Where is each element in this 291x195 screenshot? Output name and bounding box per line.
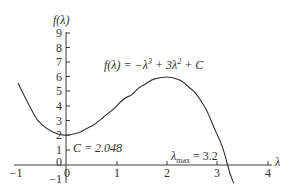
svg-text:7: 7 [56, 55, 62, 69]
svg-text:3: 3 [214, 166, 220, 180]
svg-text:9: 9 [56, 26, 62, 40]
svg-text:8: 8 [56, 41, 62, 55]
c-value-label: C = 2.048 [73, 141, 122, 155]
y-ticks [66, 33, 70, 150]
y-axis-label: f(λ) [53, 13, 70, 27]
svg-text:4: 4 [265, 166, 271, 180]
chart: 9 8 7 6 5 4 3 2 1 0 −1 −1 0 1 2 3 4 f(λ)… [0, 0, 291, 195]
y-tick-labels: 9 8 7 6 5 4 3 2 1 0 −1 [49, 26, 62, 186]
svg-text:0: 0 [64, 166, 70, 180]
formula-label: f(λ) = −λ3 + 3λ2 + C [104, 57, 204, 72]
svg-text:6: 6 [56, 70, 62, 84]
function-curve [18, 77, 234, 183]
x-axis-label: λ [274, 155, 280, 169]
svg-text:2: 2 [164, 166, 170, 180]
svg-text:0: 0 [56, 155, 62, 169]
svg-text:−1: −1 [49, 172, 62, 186]
svg-text:5: 5 [56, 84, 62, 98]
svg-text:−1: −1 [10, 166, 23, 180]
svg-text:1: 1 [114, 166, 120, 180]
svg-text:4: 4 [56, 99, 62, 113]
svg-text:3: 3 [56, 114, 62, 128]
lambda-max-label: λmax = 3.2 [170, 149, 218, 165]
